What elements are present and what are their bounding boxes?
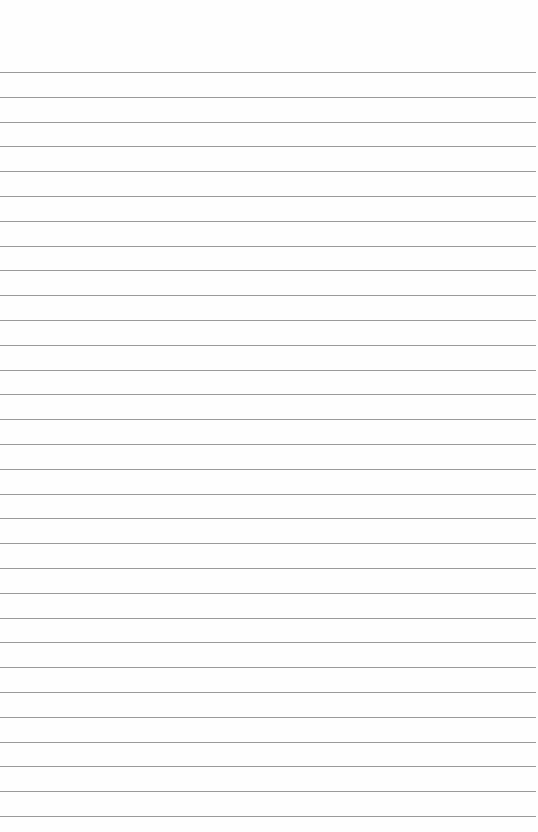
ruled-line — [0, 72, 536, 73]
ruled-line — [0, 494, 536, 495]
ruled-line — [0, 642, 536, 643]
ruled-line — [0, 543, 536, 544]
ruled-line — [0, 320, 536, 321]
ruled-line — [0, 791, 536, 792]
ruled-line — [0, 122, 536, 123]
ruled-line — [0, 593, 536, 594]
ruled-line — [0, 246, 536, 247]
ruled-line — [0, 766, 536, 767]
ruled-line — [0, 295, 536, 296]
ruled-line — [0, 667, 536, 668]
ruled-line — [0, 444, 536, 445]
ruled-line — [0, 469, 536, 470]
ruled-line — [0, 518, 536, 519]
ruled-line — [0, 146, 536, 147]
ruled-line — [0, 221, 536, 222]
ruled-line — [0, 394, 536, 395]
ruled-line — [0, 419, 536, 420]
ruled-line — [0, 692, 536, 693]
lined-paper-page — [0, 0, 538, 832]
ruled-line — [0, 816, 536, 817]
ruled-line — [0, 196, 536, 197]
ruled-line — [0, 97, 536, 98]
ruled-line — [0, 370, 536, 371]
ruled-line — [0, 742, 536, 743]
ruled-line — [0, 568, 536, 569]
ruled-line — [0, 717, 536, 718]
ruled-line — [0, 345, 536, 346]
ruled-line — [0, 171, 536, 172]
ruled-line — [0, 270, 536, 271]
ruled-line — [0, 618, 536, 619]
